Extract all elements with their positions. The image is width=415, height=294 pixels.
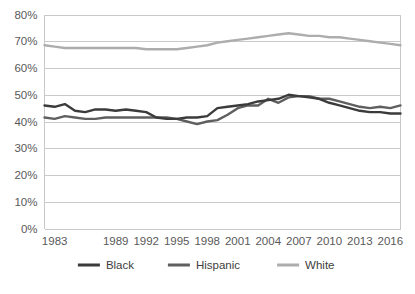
y-tick-label: 70%: [14, 35, 37, 47]
y-tick-label: 20%: [14, 169, 37, 181]
y-tick-label: 80%: [14, 9, 37, 21]
y-axis-ticks: 0%10%20%30%40%50%60%70%80%: [14, 9, 37, 235]
line-chart: 0%10%20%30%40%50%60%70%80% 1983198919921…: [0, 0, 415, 294]
y-tick-label: 0%: [21, 223, 38, 235]
x-tick-label: 1989: [103, 235, 129, 247]
legend-item-hispanic[interactable]: Hispanic: [168, 259, 240, 271]
y-tick-label: 60%: [14, 62, 37, 74]
x-tick-label: 2001: [225, 235, 251, 247]
legend-label-black: Black: [106, 259, 134, 271]
x-tick-label: 1992: [133, 235, 159, 247]
y-tick-label: 30%: [14, 142, 37, 154]
x-tick-label: 1995: [164, 235, 190, 247]
x-axis-ticks: 1983198919921995199820012004200720102013…: [42, 235, 403, 247]
x-tick-label: 1998: [194, 235, 220, 247]
x-tick-label: 2013: [347, 235, 373, 247]
series-layer: [45, 33, 401, 124]
legend-label-hispanic: Hispanic: [196, 259, 240, 271]
x-tick-label: 2016: [378, 235, 404, 247]
chart-legend: BlackHispanicWhite: [78, 259, 335, 271]
y-tick-label: 40%: [14, 116, 37, 128]
x-tick-label: 2007: [286, 235, 312, 247]
x-tick-label: 2010: [317, 235, 343, 247]
series-line-black: [45, 95, 401, 119]
x-tick-label: 2004: [255, 235, 281, 247]
legend-item-black[interactable]: Black: [78, 259, 134, 271]
plot-frame: [45, 15, 401, 229]
x-tick-label: 1983: [42, 235, 68, 247]
legend-label-white: White: [305, 259, 334, 271]
y-tick-label: 10%: [14, 196, 37, 208]
legend-item-white[interactable]: White: [277, 259, 334, 271]
chart-canvas: 0%10%20%30%40%50%60%70%80% 1983198919921…: [0, 0, 415, 294]
y-tick-label: 50%: [14, 89, 37, 101]
